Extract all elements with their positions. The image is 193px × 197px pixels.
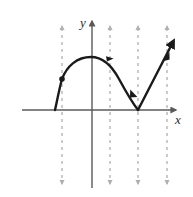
rising-ray-path: [138, 42, 173, 110]
curve-markers-group: [59, 52, 169, 98]
figure-container: x y: [0, 0, 193, 197]
marker-dot-left-branch: [59, 76, 65, 82]
vertical-dashed-lines-group: [62, 26, 167, 184]
marker-arrow-descending: [130, 90, 137, 98]
graph-canvas: x y: [0, 0, 193, 197]
y-axis-label: y: [78, 15, 86, 30]
x-axis-label: x: [174, 112, 181, 127]
parabolic-arc-path: [55, 57, 138, 110]
axes-group: [22, 21, 176, 188]
curve-group: [55, 42, 173, 110]
